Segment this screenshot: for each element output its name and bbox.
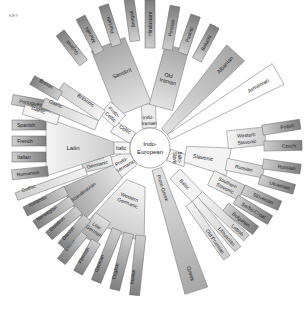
label-french: French <box>17 138 33 144</box>
svg-text:Indo- Iranian: Indo- Iranian <box>141 114 157 127</box>
label-italian: Italian <box>17 154 31 160</box>
center-label-line2: European <box>137 149 163 155</box>
label-hindustani: Hindustani <box>147 12 153 36</box>
label-czech: Czech <box>282 142 296 148</box>
center-node: Indo- European <box>130 128 170 168</box>
svg-text:Balto- Slavic: Balto- Slavic <box>172 151 182 164</box>
language-family-diagram: KEY Indo- Iranian <box>0 0 304 323</box>
branch-indo-iranian: Indo- Iranian Sanskrit Gujarati Marathi … <box>56 0 219 128</box>
label-spanish: Spanish <box>17 122 35 128</box>
radial-tree: Indo- Iranian Sanskrit Gujarati Marathi … <box>0 0 304 323</box>
label-latin: Latin <box>66 145 79 151</box>
center-label-line1: Indo- <box>143 141 157 147</box>
label-italic: Italic <box>116 145 127 151</box>
